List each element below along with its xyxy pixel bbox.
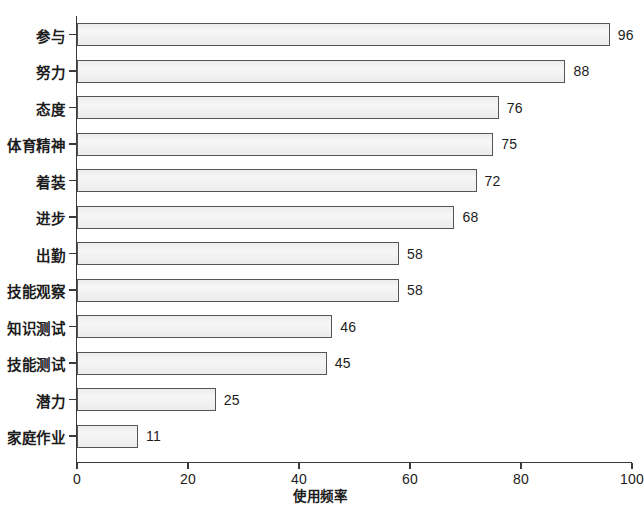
bar xyxy=(77,206,454,229)
bar-value-label: 45 xyxy=(335,355,351,371)
y-axis-tick xyxy=(69,34,76,35)
category-label: 态度 xyxy=(36,97,65,118)
category-label: 体育精神 xyxy=(7,134,65,155)
x-axis-tick xyxy=(409,463,410,469)
y-axis-tick xyxy=(69,289,76,290)
category-label: 出勤 xyxy=(36,243,65,264)
category-label: 着装 xyxy=(36,170,65,191)
y-axis-tick xyxy=(69,362,76,363)
category-label: 技能测试 xyxy=(7,353,65,374)
bar xyxy=(77,23,610,46)
category-label: 技能观察 xyxy=(7,280,65,301)
bar xyxy=(77,279,399,302)
bar xyxy=(77,352,327,375)
bar-value-label: 46 xyxy=(340,319,356,335)
y-axis-tick xyxy=(69,399,76,400)
x-axis-tick xyxy=(298,463,299,469)
category-label: 知识测试 xyxy=(7,316,65,337)
y-axis-tick xyxy=(69,180,76,181)
category-label: 努力 xyxy=(36,61,65,82)
bar-value-label: 72 xyxy=(485,173,501,189)
bar xyxy=(77,388,216,411)
y-axis-tick xyxy=(69,143,76,144)
y-axis-tick xyxy=(69,107,76,108)
category-label: 潜力 xyxy=(36,389,65,410)
category-label: 进步 xyxy=(36,207,65,228)
x-axis-tick xyxy=(187,463,188,469)
bar xyxy=(77,425,138,448)
bar-value-label: 58 xyxy=(407,246,423,262)
bar xyxy=(77,242,399,265)
bar-value-label: 96 xyxy=(618,27,634,43)
bar-value-label: 75 xyxy=(501,136,517,152)
bar xyxy=(77,96,499,119)
bar-value-label: 25 xyxy=(224,392,240,408)
bar xyxy=(77,169,477,192)
y-axis-tick xyxy=(69,326,76,327)
category-label: 参与 xyxy=(36,24,65,45)
y-axis-tick xyxy=(69,216,76,217)
bar-value-label: 76 xyxy=(507,100,523,116)
x-axis-title: 使用频率 xyxy=(0,485,641,505)
category-label: 家庭作业 xyxy=(7,426,65,447)
y-axis-tick xyxy=(69,70,76,71)
x-axis-tick xyxy=(76,463,77,469)
y-axis-tick xyxy=(69,435,76,436)
x-axis-line xyxy=(76,462,632,463)
x-axis-tick xyxy=(631,463,632,469)
bar-value-label: 88 xyxy=(573,63,589,79)
bar xyxy=(77,60,565,83)
bar-value-label: 58 xyxy=(407,282,423,298)
y-axis-tick xyxy=(69,253,76,254)
x-axis-tick xyxy=(520,463,521,469)
bar xyxy=(77,315,332,338)
bar-value-label: 11 xyxy=(146,428,161,444)
bar xyxy=(77,133,493,156)
bar-value-label: 68 xyxy=(462,209,478,225)
